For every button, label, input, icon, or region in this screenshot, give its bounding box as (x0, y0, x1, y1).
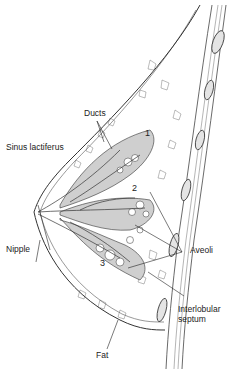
rib-sections (155, 29, 227, 323)
label-fat: Fat (96, 350, 108, 360)
label-interlobular: Interlobular (178, 304, 221, 314)
label-aveoli: Aveoli (190, 245, 213, 255)
label-septum: septum (178, 314, 206, 324)
lobule-number-3: 3 (100, 258, 105, 268)
lobule-number-1: 1 (145, 128, 150, 138)
label-nipple: Nipple (6, 244, 30, 254)
label-ducts: Ducts (84, 108, 106, 118)
breast-anatomy-diagram: Ducts Sinus lactiferus Nipple Aveoli Int… (0, 0, 242, 369)
lobule-number-2: 2 (132, 183, 137, 193)
label-sinus-lactiferus: Sinus lactiferus (6, 142, 64, 152)
